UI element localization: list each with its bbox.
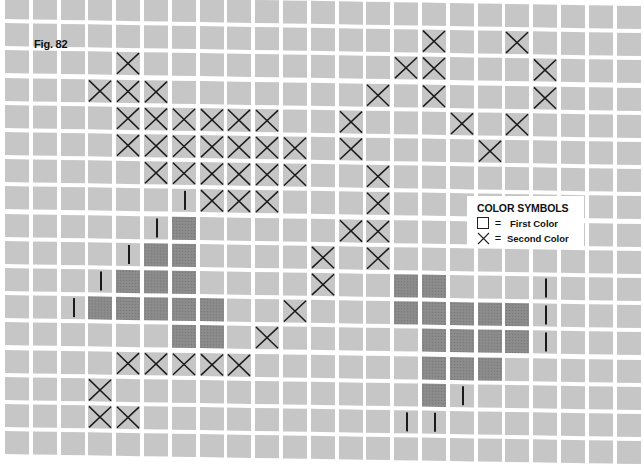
grid-cell [200,217,224,240]
x-cross-icon [255,190,279,213]
grid-cell [255,54,279,77]
x-cross-icon [366,247,390,270]
grid-cell [617,142,641,165]
legend-item-second-color: = Second Color [477,231,569,245]
x-cross-icon [255,326,279,349]
grid-cell [339,83,363,106]
grid-cell [617,87,641,110]
grid-cell [172,189,196,212]
x-stitch-cell [172,162,196,185]
grid-cell [172,434,196,457]
grid-cell [533,4,557,27]
grid-cell [422,166,446,189]
legend-item-first-color: = First Color [477,216,558,230]
grid-cell [394,29,418,52]
x-stitch-cell [366,165,390,188]
grid-cell [283,272,307,295]
x-stitch-cell [283,300,307,323]
grid-cell [5,322,29,345]
grid-cell [533,32,557,55]
grid-cell [533,304,557,327]
grid-cell [283,109,307,132]
shaded-cell [478,330,502,353]
grid-cell [144,406,168,429]
grid-cell [617,414,641,437]
grid-cell [33,404,57,427]
grid-cell [617,114,641,137]
x-cross-icon [200,189,224,212]
grid-cell [61,0,85,20]
color-symbols-legend: COLOR SYMBOLS = First Color = Second Col… [467,196,584,248]
grid-cell [88,188,112,211]
grid-cell [311,218,335,241]
grid-cell [450,30,474,53]
grid-cell [172,26,196,49]
grid-cell [283,436,307,459]
grid-cell [339,355,363,378]
grid-cell [283,218,307,241]
grid-cell [61,79,85,102]
grid-cell [450,166,474,189]
grid-cell [589,277,613,300]
grid-cell [227,27,251,50]
grid-cell [589,332,613,355]
grid-cell [5,377,29,400]
grid-cell [617,250,641,273]
x-cross-icon [339,110,363,133]
grid-cell [61,405,85,428]
grid-cell [617,332,641,355]
x-stitch-cell [366,192,390,215]
grid-cell [144,53,168,76]
x-stitch-cell [88,405,112,428]
grid-cell [5,105,29,128]
grid-cell [33,432,57,455]
shaded-cell [505,330,529,353]
grid-cell [366,2,390,25]
grid-cell [33,132,57,155]
x-cross-icon [339,219,363,242]
shaded-cell [172,243,196,266]
x-cross-icon [116,79,140,102]
grid-cell [33,268,57,291]
vertical-stitch-mark-icon [462,386,464,405]
x-stitch-cell [88,79,112,102]
grid-cell [116,324,140,347]
grid-cell [450,438,474,461]
x-cross-icon [283,164,307,187]
x-stitch-cell [116,79,140,102]
shaded-cell [200,298,224,321]
grid-cell [339,409,363,432]
legend-title: COLOR SYMBOLS [477,202,568,214]
grid-cell [33,241,57,264]
x-cross-icon [144,352,168,375]
grid-cell [144,25,168,48]
x-stitch-cell [283,136,307,159]
grid-cell [33,214,57,237]
x-cross-icon [88,79,112,102]
grid-cell [617,169,641,192]
grid-cell [61,296,85,319]
x-cross-icon [227,353,251,376]
grid-cell [505,58,529,81]
x-cross-icon [200,162,224,185]
x-stitch-cell [227,136,251,159]
x-cross-icon [255,136,279,159]
x-stitch-cell [255,136,279,159]
x-stitch-cell [255,109,279,132]
grid-cell [227,244,251,267]
grid-cell [61,51,85,74]
grid-cell [478,275,502,298]
grid-cell [88,324,112,347]
shaded-cell [144,270,168,293]
x-cross-icon [505,113,529,136]
grid-cell [88,215,112,238]
grid-cell [5,214,29,237]
grid-cell [589,359,613,382]
grid-cell [505,86,529,109]
grid-cell [227,272,251,295]
grid-cell [617,359,641,382]
grid-cell [394,2,418,25]
grid-cell [394,84,418,107]
grid-cell [33,187,57,210]
grid-cell [450,3,474,26]
